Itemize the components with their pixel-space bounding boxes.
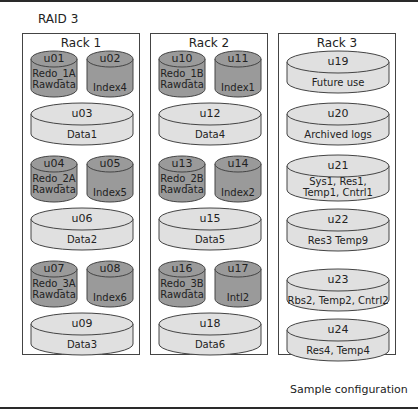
disk-id: u23 [286,274,390,285]
disk-id: u14 [214,158,262,169]
disk-u16: u16Redo_3BRawdata [158,260,206,308]
disk-id: u05 [86,158,134,169]
disk-id: u09 [30,318,134,329]
disk-id: u11 [214,53,262,64]
disk-id: u19 [286,56,390,67]
disk-id: u17 [214,263,262,274]
disk-u05: u05Index5 [86,155,134,203]
disk-u22: u22Res3 Temp9 [286,208,390,252]
disk-u21: u21Sys1, Res1,Temp1, Cntrl1 [286,154,390,202]
disk-id: u06 [30,213,134,224]
disk-label: Rawdata [158,289,206,300]
disk-id: u21 [286,160,390,171]
top-rule [0,0,418,2]
disk-u06: u06Data2 [30,207,134,251]
disk-label: Redo_1B [158,68,206,79]
disk-id: u12 [158,108,262,119]
diagram-title: RAID 3 [38,12,78,26]
disk-id: u01 [30,53,78,64]
disk-u13: u13Redo_2BRawdata [158,155,206,203]
disk-label: Res4, Temp4 [286,345,390,356]
disk-label: Redo_3A [30,278,78,289]
bottom-rule [0,407,418,409]
disk-label: Archived logs [286,129,390,140]
disk-label: Index6 [86,292,134,303]
disk-u18: u18Data6 [158,312,262,356]
disk-id: u03 [30,108,134,119]
disk-u19: u19Future use [286,50,390,94]
disk-u24: u24Res4, Temp4 [286,318,390,362]
disk-id: u13 [158,158,206,169]
disk-label: Data5 [158,234,262,245]
rack-label: Rack 3 [279,36,395,50]
disk-u12: u12Data4 [158,102,262,146]
disk-label: Redo_1A [30,68,78,79]
disk-u08: u08Index6 [86,260,134,308]
disk-label: Data3 [30,339,134,350]
disk-u02: u02Index4 [86,50,134,98]
disk-label: Redo_2B [158,173,206,184]
disk-label: Data1 [30,129,134,140]
disk-label: Index1 [214,82,262,93]
disk-u04: u04Redo_2ARawdata [30,155,78,203]
disk-u11: u11Index1 [214,50,262,98]
disk-label: Intl2 [214,292,262,303]
disk-u20: u20Archived logs [286,102,390,146]
disk-label: Redo_3B [158,278,206,289]
disk-label: Rbs2, Temp2, Cntrl2 [286,295,390,306]
disk-u01: u01Redo_1ARawdata [30,50,78,98]
disk-u23: u23Rbs2, Temp2, Cntrl2 [286,268,390,312]
caption: Sample configuration [290,383,408,396]
disk-label: Data2 [30,234,134,245]
disk-id: u02 [86,53,134,64]
disk-id: u15 [158,213,262,224]
disk-u07: u07Redo_3ARawdata [30,260,78,308]
disk-label: Rawdata [30,289,78,300]
disk-label: Index2 [214,187,262,198]
disk-label: Res3 Temp9 [286,235,390,246]
disk-id: u20 [286,108,390,119]
disk-label: Rawdata [30,79,78,90]
disk-id: u04 [30,158,78,169]
rack-label: Rack 2 [151,36,267,50]
disk-id: u18 [158,318,262,329]
disk-label: Future use [286,77,390,88]
disk-label: Temp1, Cntrl1 [286,187,390,198]
disk-u17: u17Intl2 [214,260,262,308]
disk-label: Rawdata [30,184,78,195]
disk-label: Rawdata [158,184,206,195]
rack-label: Rack 1 [23,36,139,50]
disk-label: Data6 [158,339,262,350]
disk-label: Index5 [86,187,134,198]
disk-label: Rawdata [158,79,206,90]
disk-u14: u14Index2 [214,155,262,203]
disk-id: u10 [158,53,206,64]
disk-label: Index4 [86,82,134,93]
disk-id: u16 [158,263,206,274]
disk-u10: u10Redo_1BRawdata [158,50,206,98]
disk-label: Data4 [158,129,262,140]
disk-u03: u03Data1 [30,102,134,146]
disk-label: Redo_2A [30,173,78,184]
disk-id: u08 [86,263,134,274]
disk-id: u07 [30,263,78,274]
disk-label: Sys1, Res1, [286,176,390,187]
disk-u09: u09Data3 [30,312,134,356]
disk-u15: u15Data5 [158,207,262,251]
disk-id: u24 [286,324,390,335]
disk-id: u22 [286,214,390,225]
